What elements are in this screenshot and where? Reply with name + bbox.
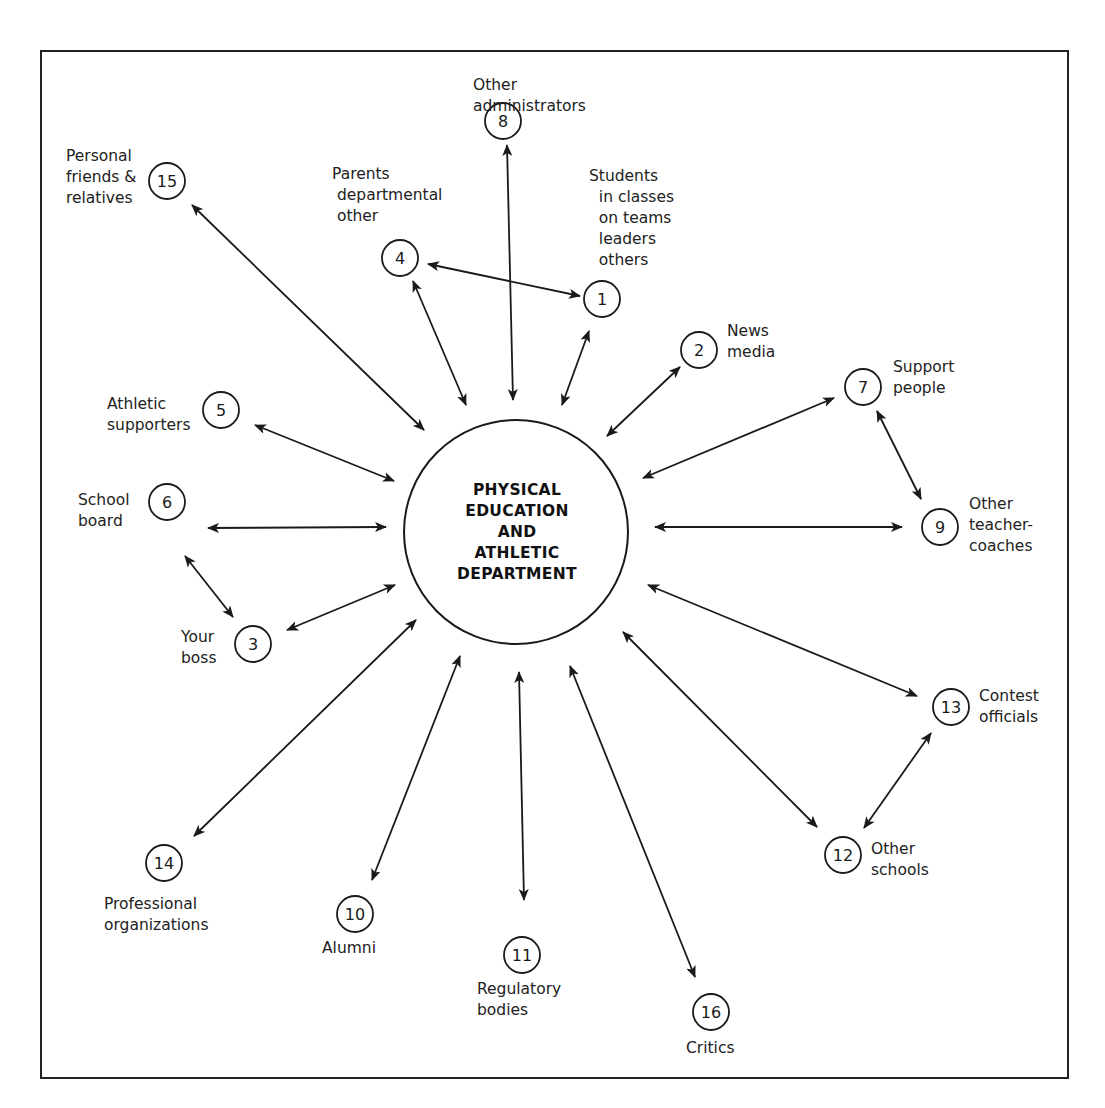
node-6: 6 (149, 484, 185, 520)
node-15: 15 (149, 163, 185, 199)
center-label: PHYSICAL EDUCATION AND ATHLETIC DEPARTME… (406, 480, 628, 585)
node-3: 3 (235, 626, 271, 662)
node-8-label: Other administrators (473, 75, 586, 117)
node-number: 16 (701, 1003, 721, 1022)
node-9-label: Other teacher- coaches (969, 494, 1033, 557)
node-10-label: Alumni (322, 938, 376, 959)
node-2-label: News media (727, 321, 775, 363)
node-number: 2 (694, 341, 704, 360)
node-number: 7 (858, 378, 868, 397)
edge-2-center-arrow (607, 367, 680, 436)
center-label-line: DEPARTMENT (406, 564, 628, 585)
node-number: 3 (248, 635, 258, 654)
node-14-label: Professional organizations (104, 894, 208, 936)
node-1: 1 (584, 281, 620, 317)
node-12-label: Other schools (871, 839, 929, 881)
edge-7-9-arrow (877, 411, 921, 499)
node-number: 11 (512, 946, 532, 965)
node-3-label: Your boss (181, 627, 216, 669)
node-15-label: Personal friends & relatives (66, 146, 136, 209)
node-16-label: Critics (686, 1038, 734, 1059)
edge-10-center-arrow (372, 656, 460, 880)
edge-4-1-arrow (428, 264, 580, 296)
node-number: 9 (935, 518, 945, 537)
center-label-line: EDUCATION (406, 501, 628, 522)
center-label-line: AND (406, 522, 628, 543)
node-number: 13 (941, 698, 961, 717)
edge-6-center-arrow (208, 527, 386, 528)
node-13-label: Contest officials (979, 686, 1039, 728)
edge-4-center-arrow (413, 281, 466, 405)
edge-11-center-arrow (519, 672, 524, 900)
node-13: 13 (933, 689, 969, 725)
edge-5-center-arrow (255, 425, 394, 481)
node-number: 14 (154, 854, 174, 873)
node-number: 1 (597, 290, 607, 309)
node-16: 16 (693, 994, 729, 1030)
node-4: 4 (382, 240, 418, 276)
node-number: 12 (833, 846, 853, 865)
node-11: 11 (504, 937, 540, 973)
node-number: 4 (395, 249, 405, 268)
edge-16-center-arrow (570, 666, 695, 977)
node-7-label: Support people (893, 357, 954, 399)
node-11-label: Regulatory bodies (477, 979, 561, 1021)
edge-6-3-arrow (185, 556, 233, 617)
center-label-line: ATHLETIC (406, 543, 628, 564)
node-9: 9 (922, 509, 958, 545)
edge-7-center-arrow (643, 398, 834, 478)
node-10: 10 (337, 896, 373, 932)
node-6-label: School board (78, 490, 129, 532)
center-label-line: PHYSICAL (406, 480, 628, 501)
node-4-label: Parents departmental other (332, 164, 442, 227)
node-12: 12 (825, 837, 861, 873)
node-14: 14 (146, 845, 182, 881)
node-number: 5 (216, 401, 226, 420)
node-number: 6 (162, 493, 172, 512)
node-2: 2 (681, 332, 717, 368)
node-1-label: Students in classes on teams leaders oth… (589, 166, 674, 271)
node-5-label: Athletic supporters (107, 394, 191, 436)
node-5: 5 (203, 392, 239, 428)
node-number: 10 (345, 905, 365, 924)
edge-14-center-arrow (194, 620, 416, 836)
edge-8-center-arrow (507, 145, 513, 400)
edge-13-12-arrow (864, 733, 931, 828)
node-number: 15 (157, 172, 177, 191)
edge-3-center-arrow (287, 585, 395, 630)
edge-12-center-arrow (623, 632, 817, 827)
edge-13-center-arrow (648, 585, 917, 696)
edge-1-center-arrow (562, 331, 589, 405)
node-7: 7 (845, 369, 881, 405)
